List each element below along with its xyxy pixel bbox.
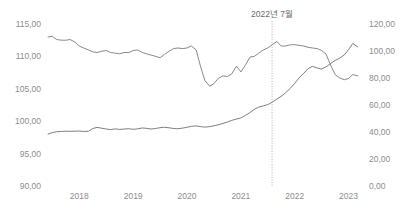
x-axis-tick-label: 2018 bbox=[70, 191, 89, 201]
y-axis-right-tick-label: 0,00 bbox=[369, 181, 386, 191]
x-axis-tick-label: 2022 bbox=[285, 191, 304, 201]
x-axis-tick-label: 2021 bbox=[231, 191, 250, 201]
x-axis-tick-label: 2019 bbox=[124, 191, 143, 201]
y-axis-right-tick-label: 80,00 bbox=[369, 73, 391, 83]
y-axis-right-tick-label: 40,00 bbox=[369, 127, 391, 137]
series-line-left bbox=[48, 36, 358, 86]
y-axis-right-tick-label: 120,00 bbox=[369, 19, 395, 29]
y-axis-left-tick-label: 95,00 bbox=[20, 149, 42, 159]
chart-canvas: 115,00110,00105,00100,0095,0090,00120,00… bbox=[0, 0, 408, 220]
series-line-right bbox=[48, 43, 358, 134]
y-axis-left-tick-label: 110,00 bbox=[16, 51, 42, 61]
dual-axis-line-chart: 115,00110,00105,00100,0095,0090,00120,00… bbox=[0, 0, 408, 220]
y-axis-right-tick-label: 100,00 bbox=[369, 46, 395, 56]
x-axis-tick-label: 2023 bbox=[339, 191, 358, 201]
y-axis-left-tick-label: 100,00 bbox=[15, 116, 41, 126]
annotation-label: 2022년 7월 bbox=[251, 9, 293, 19]
y-axis-left-tick-label: 105,00 bbox=[15, 84, 41, 94]
y-axis-left-tick-label: 115,00 bbox=[16, 19, 42, 29]
x-axis-tick-label: 2020 bbox=[178, 191, 197, 201]
y-axis-left-tick-label: 90,00 bbox=[20, 181, 42, 191]
y-axis-right-tick-label: 60,00 bbox=[369, 100, 391, 110]
y-axis-right-tick-label: 20,00 bbox=[369, 154, 391, 164]
